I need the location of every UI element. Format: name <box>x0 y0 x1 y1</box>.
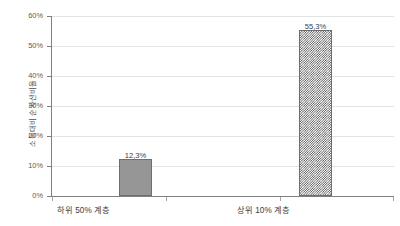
x-axis-line <box>52 196 394 197</box>
x-tick-mark-mid-1 <box>166 197 167 201</box>
gridline-10 <box>52 166 394 167</box>
x-tick-label-top-10: 상위 10% 계층 <box>184 206 344 216</box>
y-tick-label-30: 30% <box>3 102 43 110</box>
bar-top-10[interactable] <box>299 30 332 196</box>
y-tick-label-50: 50% <box>3 42 43 50</box>
x-tick-mark-mid-2 <box>280 197 281 201</box>
bar-value-label-lower-50: 12,3% <box>96 151 176 160</box>
y-tick-label-10: 10% <box>3 162 43 170</box>
bar-chart: 소득대비 순자산비율 60% 50% 40% 30% 20% 10% 0% 12… <box>0 0 400 226</box>
y-tick-label-40: 40% <box>3 72 43 80</box>
gridline-20 <box>52 136 394 137</box>
bar-lower-50[interactable] <box>119 159 152 196</box>
y-tick-label-0: 0% <box>3 192 43 200</box>
gridline-60 <box>52 16 394 17</box>
y-tick-label-20: 20% <box>3 132 43 140</box>
x-tick-mark-end <box>393 197 394 201</box>
plot-area <box>52 16 394 196</box>
y-tick-label-60: 60% <box>3 12 43 20</box>
gridline-30 <box>52 106 394 107</box>
x-tick-label-lower-50: 하위 50% 계층 <box>4 206 164 216</box>
bar-value-label-top-10: 55,3% <box>276 22 356 31</box>
gridline-50 <box>52 46 394 47</box>
gridline-40 <box>52 76 394 77</box>
x-tick-mark-start <box>52 197 53 201</box>
